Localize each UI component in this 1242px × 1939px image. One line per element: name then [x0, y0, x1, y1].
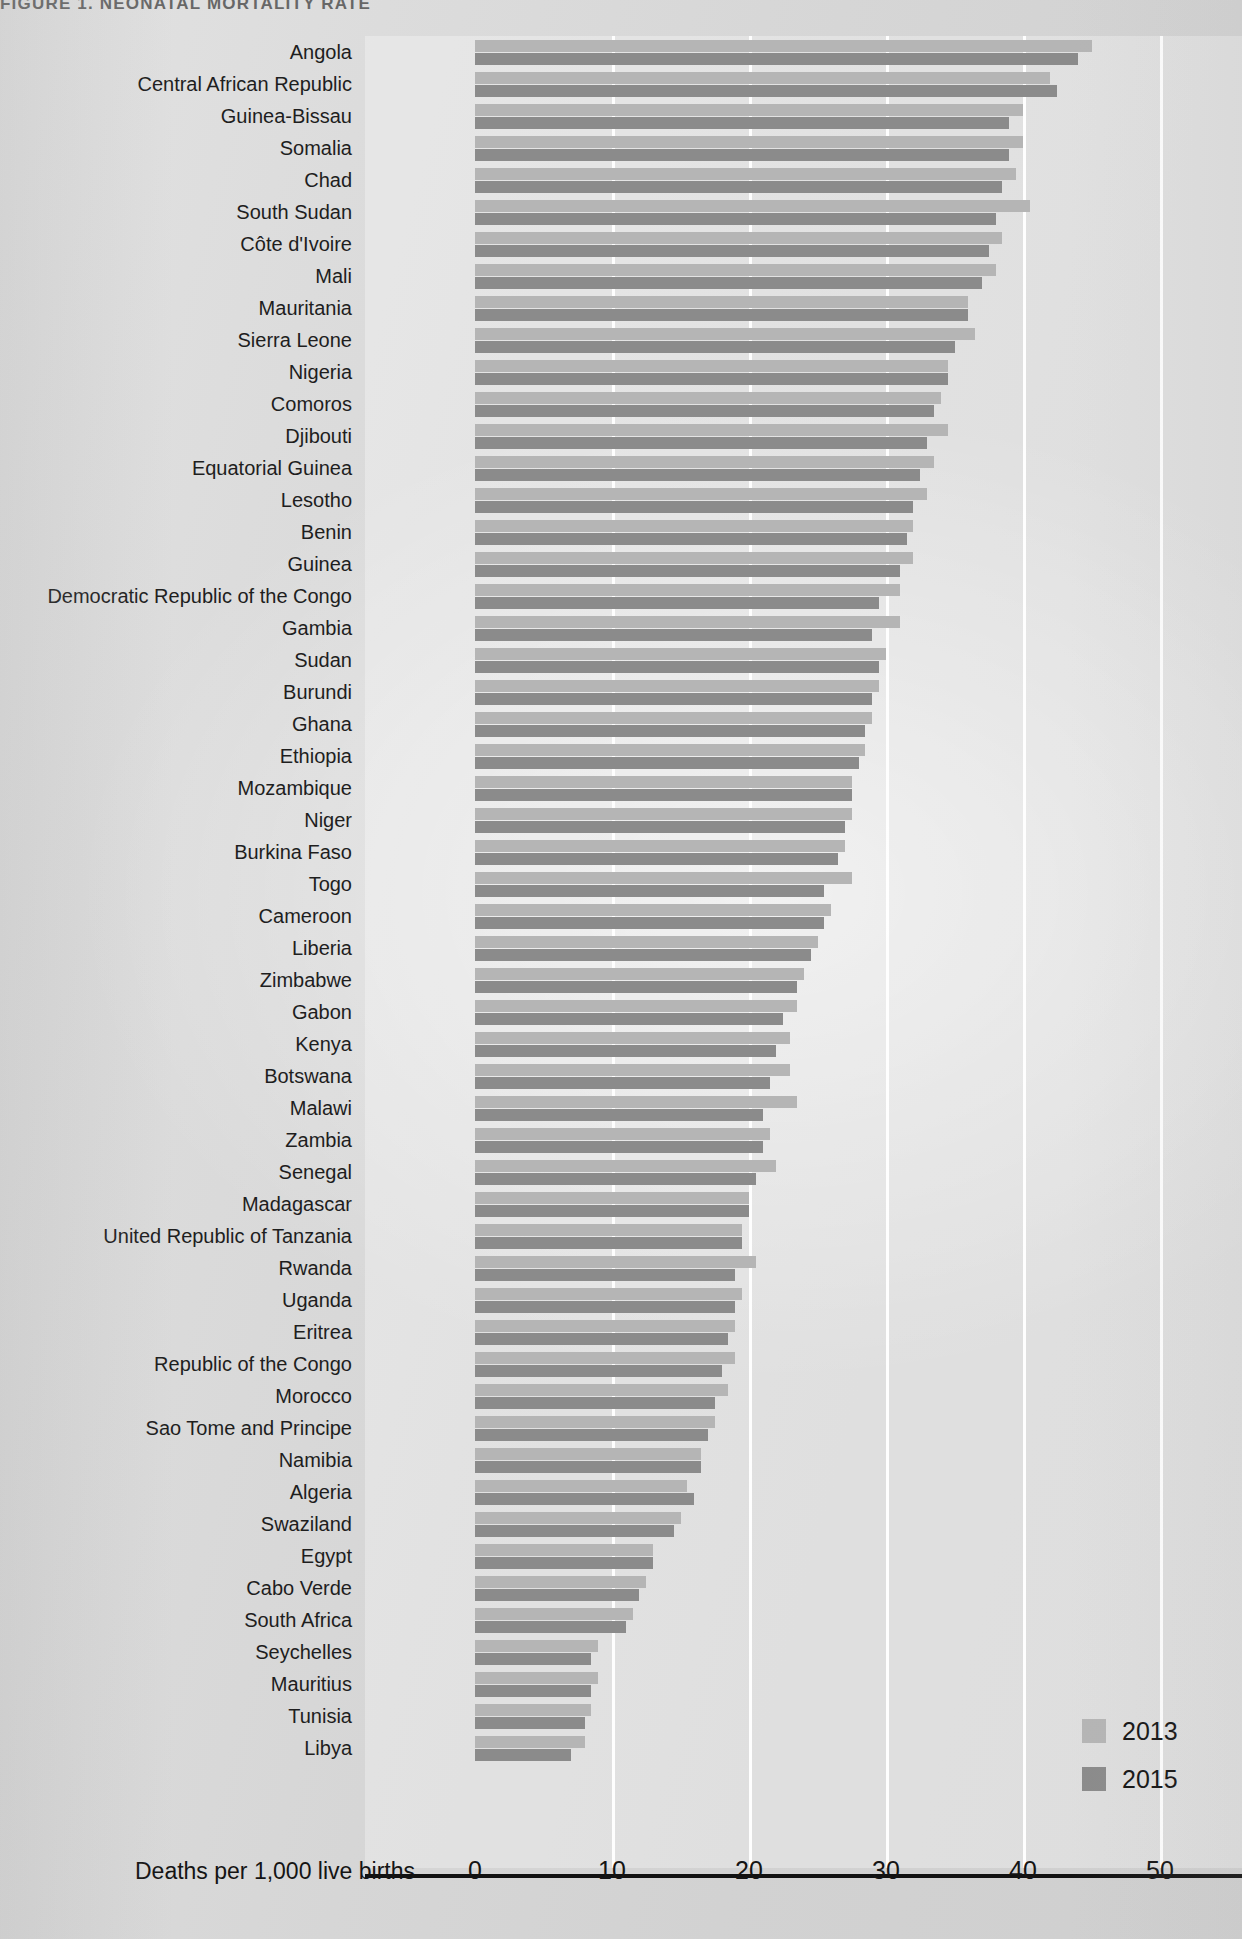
bar-2013[interactable]	[475, 1608, 633, 1620]
bar-2013[interactable]	[475, 1000, 797, 1012]
bar-2015[interactable]	[475, 1621, 626, 1633]
bar-2015[interactable]	[475, 85, 1057, 97]
bar-2015[interactable]	[475, 853, 838, 865]
bar-2015[interactable]	[475, 949, 811, 961]
bar-2013[interactable]	[475, 872, 852, 884]
bar-2013[interactable]	[475, 296, 968, 308]
bar-2015[interactable]	[475, 693, 872, 705]
bar-2013[interactable]	[475, 1416, 715, 1428]
bar-2015[interactable]	[475, 501, 913, 513]
bar-2015[interactable]	[475, 1365, 722, 1377]
bar-2013[interactable]	[475, 168, 1016, 180]
bar-2013[interactable]	[475, 1096, 797, 1108]
bar-2013[interactable]	[475, 1736, 585, 1748]
bar-2015[interactable]	[475, 565, 900, 577]
legend-item[interactable]: 2013	[1082, 1718, 1232, 1744]
bar-2015[interactable]	[475, 661, 879, 673]
bar-2015[interactable]	[475, 917, 824, 929]
bar-2013[interactable]	[475, 1576, 646, 1588]
bar-2015[interactable]	[475, 1205, 749, 1217]
bar-2013[interactable]	[475, 1672, 598, 1684]
bar-2015[interactable]	[475, 1685, 591, 1697]
bar-2015[interactable]	[475, 277, 982, 289]
bar-2015[interactable]	[475, 1749, 571, 1761]
bar-2015[interactable]	[475, 1109, 763, 1121]
bar-2015[interactable]	[475, 1429, 708, 1441]
bar-2015[interactable]	[475, 1301, 735, 1313]
bar-2013[interactable]	[475, 1448, 701, 1460]
bar-2013[interactable]	[475, 1032, 790, 1044]
bar-2015[interactable]	[475, 1589, 639, 1601]
bar-2013[interactable]	[475, 488, 927, 500]
bar-2015[interactable]	[475, 1077, 770, 1089]
bar-2015[interactable]	[475, 1525, 674, 1537]
bar-2013[interactable]	[475, 648, 886, 660]
bar-2013[interactable]	[475, 1352, 735, 1364]
bar-2015[interactable]	[475, 981, 797, 993]
bar-2013[interactable]	[475, 520, 913, 532]
bar-2013[interactable]	[475, 1480, 687, 1492]
bar-2013[interactable]	[475, 1320, 735, 1332]
bar-2013[interactable]	[475, 72, 1050, 84]
bar-2015[interactable]	[475, 469, 920, 481]
bar-2013[interactable]	[475, 584, 900, 596]
bar-2013[interactable]	[475, 264, 996, 276]
bar-2013[interactable]	[475, 200, 1030, 212]
bar-2015[interactable]	[475, 1045, 776, 1057]
bar-2013[interactable]	[475, 136, 1023, 148]
bar-2013[interactable]	[475, 1544, 653, 1556]
bar-2015[interactable]	[475, 405, 934, 417]
bar-2013[interactable]	[475, 456, 934, 468]
bar-2013[interactable]	[475, 424, 948, 436]
bar-2015[interactable]	[475, 1237, 742, 1249]
bar-2013[interactable]	[475, 1128, 770, 1140]
bar-2013[interactable]	[475, 104, 1023, 116]
legend-item[interactable]: 2015	[1082, 1766, 1232, 1792]
bar-2015[interactable]	[475, 245, 989, 257]
bar-2013[interactable]	[475, 552, 913, 564]
bar-2013[interactable]	[475, 968, 804, 980]
bar-2013[interactable]	[475, 904, 831, 916]
bar-2013[interactable]	[475, 776, 852, 788]
bar-2015[interactable]	[475, 149, 1009, 161]
bar-2013[interactable]	[475, 1512, 681, 1524]
bar-2013[interactable]	[475, 328, 975, 340]
bar-2013[interactable]	[475, 40, 1092, 52]
bar-2015[interactable]	[475, 437, 927, 449]
bar-2015[interactable]	[475, 1717, 585, 1729]
bar-2013[interactable]	[475, 840, 845, 852]
bar-2015[interactable]	[475, 1461, 701, 1473]
bar-2013[interactable]	[475, 936, 818, 948]
bar-2015[interactable]	[475, 597, 879, 609]
bar-2015[interactable]	[475, 181, 1002, 193]
bar-2015[interactable]	[475, 1397, 715, 1409]
bar-2013[interactable]	[475, 680, 879, 692]
bar-2013[interactable]	[475, 1256, 756, 1268]
bar-2015[interactable]	[475, 1333, 728, 1345]
bar-2015[interactable]	[475, 1493, 694, 1505]
bar-2013[interactable]	[475, 1704, 591, 1716]
bar-2013[interactable]	[475, 616, 900, 628]
bar-2013[interactable]	[475, 232, 1002, 244]
bar-2013[interactable]	[475, 392, 941, 404]
bar-2015[interactable]	[475, 533, 907, 545]
bar-2013[interactable]	[475, 1160, 776, 1172]
bar-2013[interactable]	[475, 1192, 749, 1204]
bar-2013[interactable]	[475, 808, 852, 820]
bar-2015[interactable]	[475, 373, 948, 385]
bar-2015[interactable]	[475, 757, 859, 769]
bar-2015[interactable]	[475, 309, 968, 321]
bar-2015[interactable]	[475, 53, 1078, 65]
bar-2015[interactable]	[475, 213, 996, 225]
bar-2013[interactable]	[475, 744, 865, 756]
bar-2015[interactable]	[475, 1557, 653, 1569]
bar-2015[interactable]	[475, 341, 955, 353]
bar-2015[interactable]	[475, 629, 872, 641]
bar-2015[interactable]	[475, 821, 845, 833]
bar-2015[interactable]	[475, 117, 1009, 129]
bar-2015[interactable]	[475, 725, 865, 737]
bar-2015[interactable]	[475, 1653, 591, 1665]
bar-2013[interactable]	[475, 1064, 790, 1076]
bar-2015[interactable]	[475, 885, 824, 897]
bar-2013[interactable]	[475, 1288, 742, 1300]
